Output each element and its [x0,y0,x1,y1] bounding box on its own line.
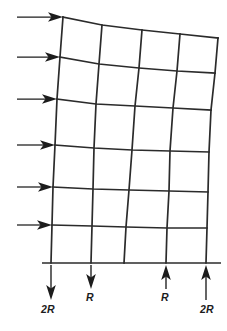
lateral-load-level-4 [17,94,57,104]
reaction-label-left-inner: R [86,291,94,303]
base-reaction-arrows [46,265,211,300]
lateral-load-level-1 [17,220,52,230]
reaction-right-outer [201,265,211,300]
reaction-right-inner [161,265,171,289]
reaction-labels: 2R R R 2R [40,291,214,315]
reaction-label-right-inner: R [161,291,169,303]
reaction-label-right-outer: 2R [199,303,214,315]
lateral-load-level-3 [17,140,55,150]
beam-level-1 [52,225,207,228]
reaction-label-left-outer: 2R [40,303,55,315]
beam-level-6 [63,17,218,38]
beam-level-5 [60,57,215,73]
reaction-left-outer [46,265,56,300]
reaction-left-inner [86,265,96,289]
column-2 [91,25,102,263]
column-1 [51,17,63,263]
column-5 [206,38,218,263]
lateral-load-level-2 [17,182,53,192]
frame-structure [42,17,221,263]
frame-diagram-canvas: 2R R R 2R [0,0,227,331]
beam-level-2 [53,187,208,192]
lateral-load-level-5 [17,52,60,62]
frame-beams [52,17,218,228]
frame-diagram-figure: 2R R R 2R [0,0,227,331]
lateral-load-level-6 [17,12,63,22]
